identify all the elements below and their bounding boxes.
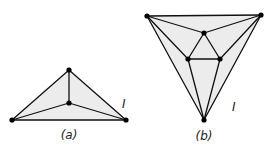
- vertex: [9, 117, 14, 122]
- vertex: [66, 100, 71, 105]
- vertex: [201, 30, 206, 35]
- vertex: [217, 56, 222, 61]
- vertex: [123, 117, 128, 122]
- vertex: [258, 12, 263, 17]
- figure-b: I (b): [144, 12, 263, 143]
- vertex: [66, 67, 71, 72]
- vertex: [185, 56, 190, 61]
- face-label-b: I: [232, 100, 236, 114]
- face-label-a: I: [122, 97, 126, 111]
- caption-b: (b): [196, 129, 213, 143]
- caption-a: (a): [61, 128, 78, 142]
- figure-a: I (a): [9, 67, 128, 142]
- planar-graph-diagram: I (a) I (b): [0, 0, 273, 152]
- vertex: [201, 117, 206, 122]
- vertex: [144, 13, 149, 18]
